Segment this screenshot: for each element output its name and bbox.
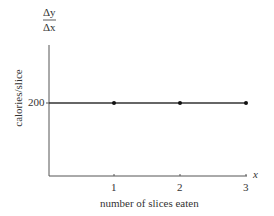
data-point-1 (112, 101, 116, 105)
data-point-2 (178, 101, 182, 105)
y-axis-symbol-denominator: Δx (43, 21, 56, 33)
x-tick-label-2: 2 (177, 181, 183, 193)
x-axis-symbol: x (253, 168, 258, 180)
chart-canvas (0, 0, 274, 216)
y-tick-label-200: 200 (28, 96, 45, 108)
y-axis-symbol-numerator: Δy (43, 6, 56, 18)
x-tick-label-3: 3 (243, 181, 249, 193)
y-axis-label: calories/slice (12, 58, 24, 138)
data-point-3 (244, 101, 248, 105)
x-tick-label-1: 1 (111, 181, 117, 193)
x-axis-label: number of slices eaten (100, 197, 199, 209)
